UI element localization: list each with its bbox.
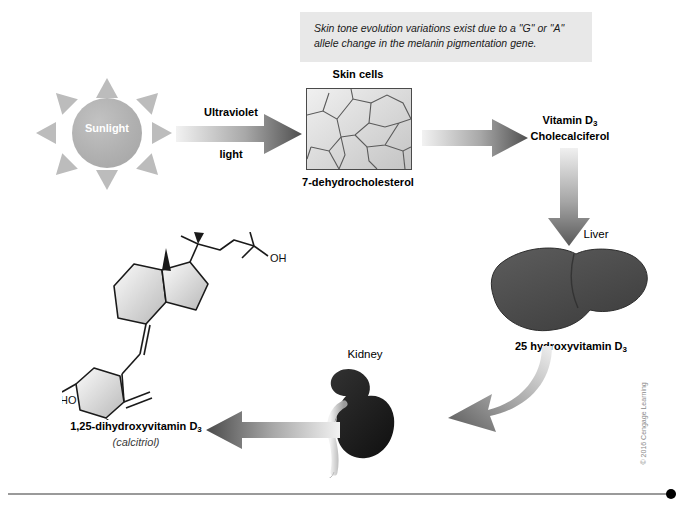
calcitriol-alias: (calcitriol): [112, 436, 159, 448]
sun-ray-north-icon: [96, 78, 118, 98]
hydroxy-subscript: 3: [623, 345, 627, 354]
sunlight-graphic: Sunlight: [36, 78, 172, 190]
calcitriol-label: 1,25-dihydroxyvitamin D3 (calcitriol): [36, 420, 236, 449]
sun-ray-south-icon: [96, 170, 118, 190]
vitamin-d3-name: Vitamin D: [543, 114, 594, 126]
sun-ray-southeast-icon: [136, 153, 166, 183]
structure-ho-label: HO: [62, 394, 77, 406]
vitamin-d3-subscript: 3: [593, 119, 597, 128]
footer-divider: [8, 493, 676, 495]
sunlight-label: Sunlight: [72, 122, 142, 134]
footer-dot: [666, 489, 676, 499]
sun-ray-east-icon: [152, 122, 172, 144]
calcitriol-subscript: 3: [197, 425, 201, 434]
calcitriol-chemical-structure: OH HO OH: [62, 232, 290, 420]
7-dehydrocholesterol-label: 7-dehydrocholesterol: [280, 176, 436, 189]
callout-line-1: Skin tone evolution variations exist due…: [314, 22, 564, 34]
sun-ray-southwest-icon: [48, 153, 78, 183]
calcitriol-name: 1,25-dihydroxyvitamin D: [70, 420, 197, 432]
kidney-label: Kidney: [330, 348, 400, 361]
structure-oh-sidechain: OH: [270, 252, 287, 264]
liver-to-kidney-arrow: [392, 344, 552, 434]
sun-ray-northeast-icon: [136, 85, 166, 115]
copyright-notice: © 2016 Cengage Learning: [636, 372, 650, 468]
skin-cells-title: Skin cells: [300, 68, 416, 81]
callout-line-2: allele change in the melanin pigmentatio…: [314, 37, 536, 49]
liver-label: Liver: [566, 228, 626, 241]
sun-ray-northwest-icon: [48, 85, 78, 115]
liver-organ: [486, 244, 656, 340]
ultraviolet-label-bottom: light: [176, 148, 286, 161]
copyright-text: © 2016 Cengage Learning: [640, 369, 647, 465]
ultraviolet-label-top: Ultraviolet: [176, 106, 286, 119]
callout-text: Skin tone evolution variations exist due…: [314, 21, 584, 51]
sun-ray-west-icon: [36, 122, 56, 144]
vitamin-d3-label: Vitamin D3 Cholecalciferol: [500, 114, 640, 143]
cholecalciferol-label: Cholecalciferol: [531, 130, 610, 142]
callout-box: Skin tone evolution variations exist due…: [300, 12, 592, 62]
skin-cells-diagram: [306, 88, 412, 170]
